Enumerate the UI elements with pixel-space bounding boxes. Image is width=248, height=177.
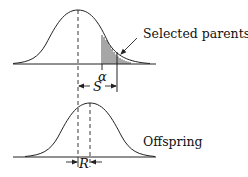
selected-parents-label: Selected parents (143, 28, 248, 41)
r-label: R (79, 157, 89, 170)
s-label: S (93, 80, 102, 93)
parents-curve (13, 10, 150, 64)
parents-panel (13, 10, 156, 157)
offspring-label: Offspring (143, 136, 203, 149)
selected-parents-pointer-arrow (121, 38, 137, 54)
